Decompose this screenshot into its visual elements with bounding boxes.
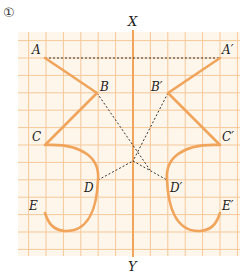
point-label-d: D [83, 181, 94, 195]
point-label-a: A [31, 43, 41, 57]
symmetry-diagram: ① X Y A B C D E A′ B′ C′ D′ E′ [0, 0, 245, 274]
diagram-canvas: ① X Y A B C D E A′ B′ C′ D′ E′ [0, 0, 245, 274]
point-label-c-prime: C′ [222, 130, 234, 144]
point-label-b: B [99, 80, 109, 94]
point-label-c: C [32, 130, 41, 144]
problem-number: ① [3, 5, 15, 20]
axis-label-x: X [127, 14, 138, 29]
point-label-b-prime: B′ [150, 80, 163, 94]
point-label-e: E [28, 199, 38, 213]
point-label-e-prime: E′ [221, 199, 234, 213]
point-label-d-prime: D′ [169, 181, 183, 195]
axis-label-y: Y [128, 259, 138, 274]
point-label-a-prime: A′ [221, 43, 234, 57]
